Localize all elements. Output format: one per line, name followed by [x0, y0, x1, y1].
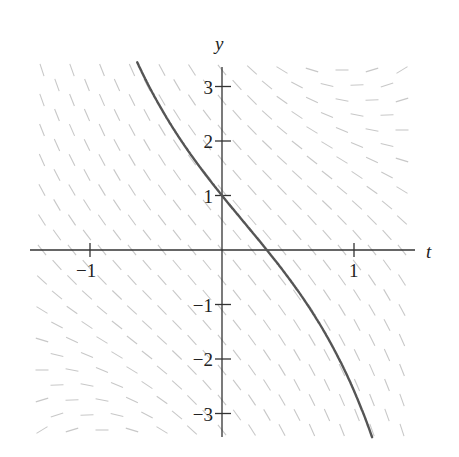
slope-segment — [159, 64, 165, 75]
y-axis-label: y — [213, 33, 224, 54]
slope-segment — [294, 349, 301, 360]
slope-segment — [127, 336, 137, 344]
slope-segment — [39, 154, 44, 166]
slope-segment — [37, 307, 48, 314]
slope-segment — [174, 79, 181, 90]
slope-segment — [55, 109, 60, 121]
slope-segment — [70, 64, 74, 76]
slope-segment — [54, 199, 61, 210]
slope-segment — [114, 139, 120, 150]
slope-segment — [336, 99, 349, 102]
slope-segment — [143, 260, 151, 270]
slope-segment — [233, 170, 241, 180]
slope-segment — [173, 170, 180, 181]
slope-segment — [98, 215, 105, 226]
slope-segment — [233, 260, 241, 270]
slope-segment — [263, 230, 271, 240]
slope-segment — [84, 200, 91, 211]
slope-segment — [129, 124, 135, 135]
slope-segment — [39, 215, 46, 226]
slope-segment — [248, 215, 256, 225]
slope-segment — [294, 409, 300, 421]
t-tick-label: −1 — [76, 260, 96, 281]
slope-segment — [367, 186, 378, 194]
t-tick-label: 1 — [349, 260, 359, 281]
slope-segment — [114, 109, 120, 121]
slope-segment — [366, 129, 379, 132]
slope-segment — [83, 230, 91, 240]
slope-segment — [248, 305, 256, 315]
slope-segment — [233, 230, 241, 240]
slope-segment — [81, 353, 93, 358]
slope-segment — [292, 141, 302, 149]
slope-segment — [248, 335, 256, 346]
slope-segment — [144, 139, 151, 150]
slope-segment — [263, 260, 271, 270]
slope-segment — [82, 321, 93, 328]
slope-segment — [99, 184, 106, 195]
slope-segment — [142, 321, 152, 330]
slope-segment — [203, 320, 211, 330]
slope-segment — [262, 81, 272, 89]
slope-segment — [277, 67, 288, 74]
slope-segment — [99, 124, 105, 136]
slope-segment — [381, 115, 394, 116]
slope-segment — [307, 127, 318, 134]
slope-segment — [40, 64, 44, 76]
slope-segment — [188, 275, 196, 285]
slope-segment — [51, 385, 64, 386]
slope-segment — [158, 215, 166, 225]
slope-segment — [324, 349, 330, 360]
y-tick-label: 3 — [204, 77, 214, 98]
slope-segment — [367, 215, 376, 224]
slope-segment — [113, 260, 122, 270]
slope-segment — [397, 216, 407, 225]
axes: −11 321−1−2−3 t y — [30, 33, 432, 437]
t-axis-label: t — [426, 241, 432, 262]
slope-segment — [70, 94, 75, 106]
slope-segment — [141, 412, 152, 418]
slope-segment — [188, 95, 195, 106]
direction-field-chart: −11 321−1−2−3 t y — [0, 0, 459, 457]
slope-segment — [279, 394, 285, 405]
slope-segment — [337, 157, 348, 164]
y-tick-label: −3 — [193, 404, 213, 425]
slope-segment — [247, 95, 256, 104]
slope-segment — [307, 156, 317, 164]
slope-segment — [321, 142, 332, 149]
slope-segment — [278, 215, 287, 225]
slope-segment — [68, 215, 75, 226]
slope-segment — [233, 80, 242, 90]
slope-segment — [233, 140, 242, 150]
slope-segment — [67, 306, 78, 314]
slope-segment — [233, 110, 242, 120]
slope-segment — [338, 275, 345, 286]
slope-segment — [321, 113, 333, 118]
slope-segment — [277, 96, 288, 104]
slope-segment — [157, 396, 168, 404]
slope-segment — [248, 395, 255, 406]
slope-segment — [278, 275, 286, 285]
slope-segment — [354, 379, 359, 391]
slope-segment — [385, 379, 390, 391]
slope-segment — [112, 291, 121, 300]
slope-segment — [262, 141, 271, 150]
slope-segment — [293, 200, 302, 209]
slope-segment — [157, 336, 167, 345]
slope-segment — [352, 171, 363, 178]
slope-segment — [381, 172, 392, 178]
slope-segment — [366, 100, 379, 101]
slope-segment — [324, 409, 329, 421]
slope-segment — [368, 275, 375, 286]
slope-segment — [114, 79, 119, 91]
slope-segment — [85, 79, 90, 91]
slope-segment — [277, 156, 287, 165]
slope-segment — [263, 170, 272, 179]
slope-segment — [309, 424, 314, 436]
slope-segment — [399, 275, 406, 286]
slope-segment — [159, 124, 166, 135]
slope-segment — [126, 428, 138, 432]
slope-segment — [96, 399, 109, 402]
slope-segment — [369, 304, 375, 315]
slope-segment — [66, 400, 79, 401]
